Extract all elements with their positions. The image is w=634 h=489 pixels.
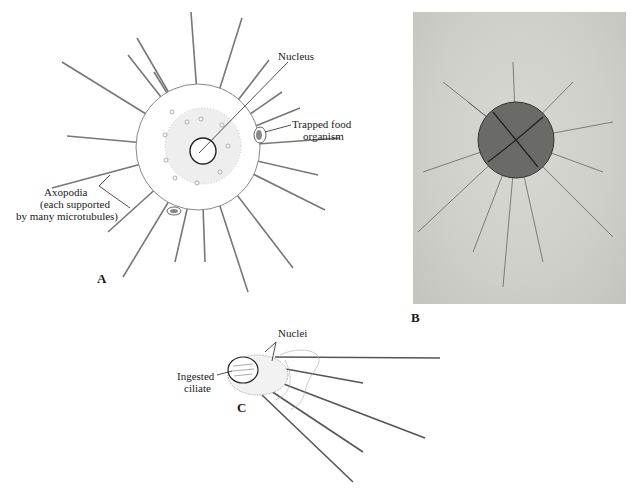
- label-trapped-food-line1: Trapped food: [292, 118, 351, 130]
- label-ingested-line2: ciliate: [184, 382, 211, 394]
- heliozoan-photo-art: [413, 12, 626, 304]
- panel-b-photomicrograph: [413, 12, 626, 304]
- label-axopodia-line2: (each supported: [40, 198, 110, 210]
- label-trapped-food-line2: organism: [303, 130, 344, 142]
- label-ingested-line1: Ingested: [177, 370, 214, 382]
- panel-letter-a: A: [97, 271, 106, 287]
- label-nuclei: Nuclei: [278, 327, 307, 339]
- label-axopodia-line3: by many microtubules): [16, 210, 118, 222]
- panel-letter-b: B: [411, 310, 420, 326]
- label-nucleus: Nucleus: [278, 50, 314, 62]
- panel-letter-c: C: [237, 400, 246, 416]
- label-axopodia-line1: Axopodia: [44, 186, 87, 198]
